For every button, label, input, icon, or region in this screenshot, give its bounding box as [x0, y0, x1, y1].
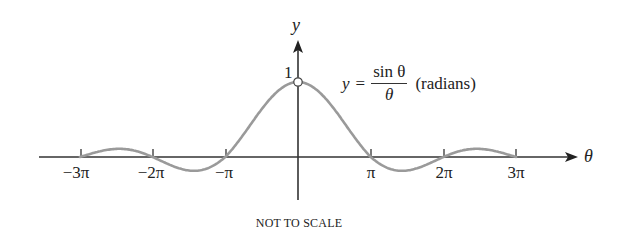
formula-equals: =: [356, 74, 366, 94]
x-tick-label: π: [367, 163, 376, 183]
formula-fraction: sin θ θ: [371, 62, 407, 105]
formula-lhs: y: [342, 74, 350, 94]
x-axis-label: θ: [584, 146, 593, 167]
sinc-plot: [0, 0, 626, 236]
formula-unit-note: (radians): [415, 74, 475, 94]
x-tick-label: −3π: [63, 163, 90, 183]
function-formula: y = sin θ θ (radians): [342, 62, 476, 105]
formula-numerator: sin θ: [371, 62, 407, 84]
scale-note: NOT TO SCALE: [0, 216, 598, 231]
open-point-marker: [294, 78, 302, 86]
x-tick-label: −π: [215, 163, 233, 183]
y-axis-label: y: [292, 15, 300, 36]
x-tick-label: −2π: [138, 163, 165, 183]
y-tick-label-1: 1: [284, 63, 293, 83]
formula-denominator: θ: [385, 84, 393, 105]
x-tick-label: 2π: [435, 163, 452, 183]
x-tick-label: 3π: [507, 163, 524, 183]
